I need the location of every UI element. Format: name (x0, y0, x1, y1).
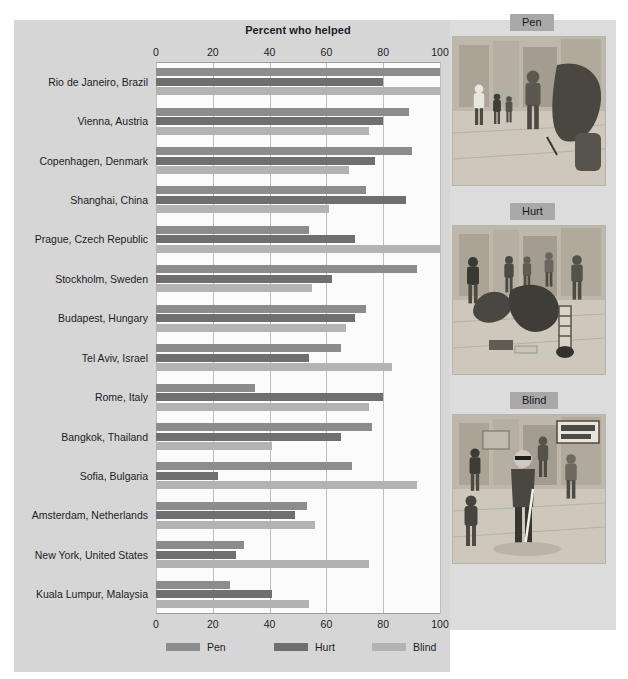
legend-label: Hurt (315, 641, 335, 653)
plot-top-border (156, 62, 440, 63)
bar-pen (156, 581, 230, 589)
bar-blind (156, 284, 312, 292)
x-axis-bottom: 020406080100 (156, 618, 440, 632)
bar-blind (156, 87, 440, 95)
Pen-illustration-art (453, 37, 605, 185)
legend-item-pen[interactable]: Pen (166, 641, 226, 653)
bar-hurt (156, 393, 383, 401)
category-label: Rome, Italy (95, 391, 148, 403)
bar-blind (156, 403, 369, 411)
bar-pen (156, 226, 309, 234)
bar-blind (156, 442, 272, 450)
category-label: Shanghai, China (70, 194, 148, 206)
bar-hurt (156, 551, 236, 559)
bar-blind (156, 481, 417, 489)
bar-blind (156, 363, 392, 371)
bar-hurt (156, 590, 272, 598)
category-label: New York, United States (35, 549, 148, 561)
bar-pen (156, 423, 372, 431)
bar-pen (156, 462, 352, 470)
bar-blind (156, 600, 309, 608)
category-label: Tel Aviv, Israel (82, 352, 148, 364)
table-row (156, 180, 440, 219)
bar-pen (156, 147, 412, 155)
category-label: Copenhagen, Denmark (39, 155, 148, 167)
x-tick-60: 60 (321, 618, 333, 630)
bar-blind (156, 205, 329, 213)
x-tick-80: 80 (377, 46, 389, 58)
bar-hurt (156, 433, 341, 441)
table-row (156, 220, 440, 259)
table-row (156, 496, 440, 535)
plot-area (156, 62, 440, 614)
legend-item-blind[interactable]: Blind (372, 641, 436, 653)
chart-page: Percent who helped 020406080100 02040608… (0, 0, 628, 679)
table-row (156, 338, 440, 377)
category-label: Kuala Lumpur, Malaysia (36, 588, 148, 600)
gridline-100 (440, 62, 441, 614)
bar-hurt (156, 235, 355, 243)
bar-pen (156, 344, 341, 352)
category-label: Vienna, Austria (78, 115, 148, 127)
table-row (156, 141, 440, 180)
illustration-tag-blind: Blind (510, 392, 558, 409)
chart-title: Percent who helped (156, 24, 440, 36)
bar-hurt (156, 275, 332, 283)
legend-label: Blind (413, 641, 436, 653)
bar-hurt (156, 511, 295, 519)
Hurt-illustration-art (453, 226, 605, 374)
bar-hurt (156, 472, 218, 480)
illustration-pen (452, 36, 606, 186)
bar-blind (156, 324, 346, 332)
table-row (156, 417, 440, 456)
category-label: Sofia, Bulgaria (80, 470, 148, 482)
x-tick-0: 0 (153, 46, 159, 58)
x-tick-0: 0 (153, 618, 159, 630)
illustration-blind (452, 414, 606, 564)
bar-pen (156, 305, 366, 313)
legend-swatch-blind (372, 643, 406, 651)
legend-swatch-pen (166, 643, 200, 651)
category-axis-labels: Rio de Janeiro, BrazilVienna, AustriaCop… (14, 62, 154, 614)
x-tick-60: 60 (321, 46, 333, 58)
bar-pen (156, 108, 409, 116)
bar-hurt (156, 314, 355, 322)
table-row (156, 535, 440, 574)
table-row (156, 456, 440, 495)
bar-rows (156, 62, 440, 614)
table-row (156, 575, 440, 614)
legend-swatch-hurt (274, 643, 308, 651)
bar-hurt (156, 196, 406, 204)
table-row (156, 259, 440, 298)
bar-blind (156, 521, 315, 529)
category-label: Budapest, Hungary (58, 312, 148, 324)
bar-blind (156, 127, 369, 135)
bar-blind (156, 166, 349, 174)
x-tick-20: 20 (207, 46, 219, 58)
category-label: Bangkok, Thailand (61, 431, 148, 443)
bar-hurt (156, 157, 375, 165)
illustration-tag-hurt: Hurt (510, 203, 555, 220)
illustration-hurt (452, 225, 606, 375)
table-row (156, 101, 440, 140)
x-tick-80: 80 (377, 618, 389, 630)
bar-pen (156, 541, 244, 549)
bar-pen (156, 502, 307, 510)
bar-pen (156, 186, 366, 194)
illustration-tag-pen: Pen (510, 14, 554, 31)
category-label: Stockholm, Sweden (55, 273, 148, 285)
bar-hurt (156, 117, 383, 125)
bar-pen (156, 68, 440, 76)
bar-blind (156, 560, 369, 568)
table-row (156, 62, 440, 101)
category-label: Rio de Janeiro, Brazil (48, 76, 148, 88)
bar-hurt (156, 78, 383, 86)
Blind-illustration-art (453, 415, 605, 563)
x-tick-20: 20 (207, 618, 219, 630)
category-label: Prague, Czech Republic (35, 233, 148, 245)
table-row (156, 377, 440, 416)
x-tick-40: 40 (264, 618, 276, 630)
bar-pen (156, 384, 255, 392)
bar-blind (156, 245, 440, 253)
legend-item-hurt[interactable]: Hurt (274, 641, 335, 653)
